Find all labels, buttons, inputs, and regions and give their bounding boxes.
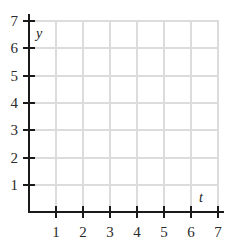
y-tick-label-3: 3 (11, 122, 19, 138)
y-tick-label-6: 6 (11, 40, 19, 56)
y-tick-label-4: 4 (11, 95, 19, 111)
y-tick-label-2: 2 (11, 150, 19, 166)
plot-area: 1 2 3 4 5 6 7 1 2 3 4 5 6 7 y t (0, 0, 231, 245)
coordinate-grid-figure: 1 2 3 4 5 6 7 1 2 3 4 5 6 7 y t (0, 0, 231, 245)
x-tick-label-2: 2 (79, 224, 87, 240)
y-tick-label-7: 7 (11, 13, 19, 29)
x-tick-label-3: 3 (106, 224, 114, 240)
x-axis-label: t (199, 190, 204, 205)
x-tick-label-7: 7 (214, 224, 222, 240)
y-tick-label-5: 5 (11, 68, 19, 84)
x-tick-label-4: 4 (133, 224, 141, 240)
y-axis-label: y (34, 26, 43, 41)
y-tick-label-1: 1 (11, 177, 19, 193)
vertical-gridlines (56, 21, 218, 212)
x-axis-tick-labels: 1 2 3 4 5 6 7 (52, 224, 222, 240)
x-tick-label-5: 5 (160, 224, 168, 240)
y-axis-tick-labels: 1 2 3 4 5 6 7 (11, 13, 19, 193)
x-tick-label-6: 6 (187, 224, 195, 240)
x-tick-label-1: 1 (52, 224, 60, 240)
